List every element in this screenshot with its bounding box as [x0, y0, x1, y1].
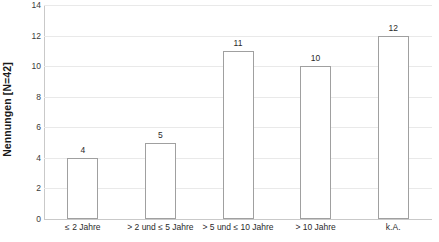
x-axis-tick-label: k.A. — [386, 222, 401, 232]
gridline — [44, 219, 432, 220]
plot-area: 45111012 — [44, 5, 432, 219]
bar-value-label: 12 — [388, 23, 397, 33]
y-axis-tick-label: 14 — [3, 0, 41, 10]
x-axis-tick-labels: ≤ 2 Jahre> 2 und ≤ 5 Jahre> 5 und ≤ 10 J… — [44, 222, 432, 240]
y-axis-tick-label: 4 — [3, 153, 41, 163]
gridline — [44, 5, 432, 6]
bar — [378, 36, 409, 219]
bar — [300, 66, 331, 219]
bar — [145, 143, 176, 219]
bar — [67, 158, 98, 219]
y-axis-tick-label: 2 — [3, 183, 41, 193]
y-axis-tick-label: 10 — [3, 61, 41, 71]
x-axis-tick-label: > 10 Jahre — [295, 222, 335, 232]
gridline — [44, 36, 432, 37]
y-axis-tick-label: 8 — [3, 92, 41, 102]
y-axis-tick-label: 6 — [3, 122, 41, 132]
bar — [223, 51, 254, 219]
bar-value-label: 10 — [311, 53, 320, 63]
y-axis-tick-labels: 02468101214 — [0, 5, 41, 220]
x-axis-tick-label: ≤ 2 Jahre — [65, 222, 100, 232]
bar-value-label: 4 — [80, 145, 85, 155]
x-axis-tick-label: > 2 und ≤ 5 Jahre — [127, 222, 193, 232]
x-axis-tick-label: > 5 und ≤ 10 Jahre — [202, 222, 273, 232]
y-axis-tick-label: 12 — [3, 31, 41, 41]
bar-chart: Nennungen [N=42] 02468101214 45111012 ≤ … — [0, 0, 439, 242]
bar-value-label: 5 — [158, 130, 163, 140]
bar-value-label: 11 — [234, 38, 243, 48]
y-axis-tick-label: 0 — [3, 214, 41, 224]
